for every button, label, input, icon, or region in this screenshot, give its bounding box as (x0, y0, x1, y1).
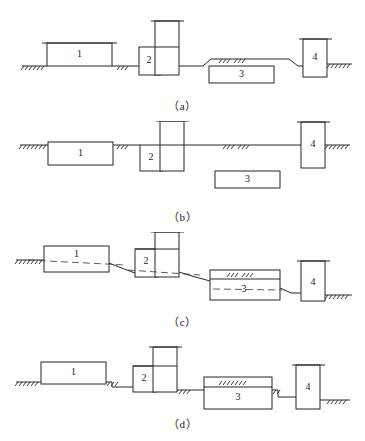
component-4-label-d: 4 (306, 381, 311, 392)
panel-b: 1 2 3 4 (0, 121, 365, 205)
component-3-label-a: 3 (239, 68, 244, 79)
figure-root: 1 2 3 4 (0, 0, 365, 441)
component-1-label-d: 1 (71, 366, 76, 377)
panel-a: 1 2 3 4 (0, 6, 365, 98)
panel-d-caption: （d） (0, 415, 365, 431)
panel-b-caption: （b） (0, 208, 365, 224)
component-4-d: 4 (292, 365, 325, 409)
ground-line-far-right-b (325, 145, 350, 149)
ground-line-right-a (327, 64, 352, 68)
component-1-b: 1 (48, 142, 113, 165)
ground-line-left-d (15, 382, 41, 386)
component-3-a: 3 (209, 66, 274, 83)
panel-c: 1 2 3 4 (0, 232, 365, 312)
component-1-label-a: 1 (77, 48, 82, 59)
ground-line-left-a (21, 66, 47, 70)
panel-d: 1 2 3 4 (0, 340, 365, 418)
ground-slope-2-3-c (179, 272, 210, 281)
component-1-a: 1 (42, 43, 117, 66)
component-2-b: 2 (140, 121, 189, 171)
component-2-d: 2 (133, 347, 182, 392)
ground-profile-a (179, 59, 303, 66)
ground-step-2-3-d (177, 390, 204, 394)
component-2-label-d: 2 (142, 372, 147, 383)
component-4-label-c: 4 (311, 276, 316, 287)
component-2-c: 2 (128, 232, 200, 277)
component-2-label-c: 2 (144, 255, 149, 266)
component-1-label-b: 1 (78, 147, 83, 158)
ground-line-mid-b (113, 145, 140, 149)
component-3-d: 3 (204, 377, 272, 409)
panel-c-caption: （c） (0, 313, 365, 329)
component-2-a: 2 (139, 21, 184, 75)
component-3-label-b: 3 (245, 173, 250, 184)
component-1-d: 1 (41, 362, 106, 384)
ground-step-1-2-d (106, 382, 133, 387)
component-1-c: 1 (28, 246, 125, 272)
component-3-c: 3 (210, 270, 282, 300)
component-3-b: 3 (215, 171, 280, 188)
ground-slope-3-4-c (280, 288, 301, 293)
ground-line-mid-a (112, 66, 139, 70)
component-4-a: 4 (299, 39, 332, 77)
component-2-label-a: 2 (147, 54, 152, 65)
ground-line-left-b (19, 145, 48, 149)
ground-line-right-d (320, 400, 350, 404)
component-4-label-a: 4 (313, 51, 318, 62)
component-4-label-b: 4 (311, 138, 316, 149)
ground-line-right-b (184, 145, 301, 149)
ground-step-3-4-d (272, 390, 296, 397)
ground-line-right-c (325, 295, 352, 299)
component-2-label-b: 2 (149, 151, 154, 162)
panel-a-caption: （a） (0, 97, 365, 113)
component-1-label-c: 1 (74, 248, 79, 259)
component-3-label-d: 3 (236, 391, 241, 402)
component-3-label-c: 3 (242, 283, 247, 294)
